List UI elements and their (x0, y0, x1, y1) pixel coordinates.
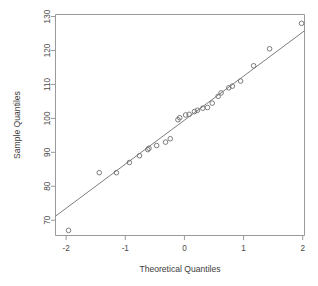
qq-line (56, 31, 305, 216)
qq-data-point (163, 140, 168, 145)
qq-data-point (251, 63, 256, 68)
x-tick-label: 0 (182, 244, 187, 253)
y-tick-label: 90 (43, 147, 52, 157)
y-tick-label: 120 (43, 43, 52, 57)
y-axis-ticks: 708090100110120130 (43, 9, 56, 225)
y-tick-label: 80 (43, 181, 52, 191)
y-axis-title: Sample Quantiles (12, 91, 22, 159)
x-axis-ticks: -2-1012 (63, 236, 306, 253)
y-tick-label: 130 (43, 9, 52, 23)
qq-data-point (210, 101, 215, 106)
y-tick-label: 110 (43, 77, 52, 90)
qq-data-point (66, 228, 71, 233)
qq-data-point (97, 170, 102, 175)
x-axis-title: Theoretical Quantiles (139, 264, 220, 274)
x-tick-label: -2 (63, 244, 71, 253)
y-tick-label: 70 (43, 215, 52, 225)
qq-data-point (168, 136, 173, 141)
y-tick-label: 100 (43, 111, 52, 125)
x-tick-label: 1 (241, 244, 246, 253)
qq-data-point (238, 79, 243, 84)
qq-data-point (205, 105, 210, 110)
qq-reference-line (56, 31, 305, 216)
qq-plot-figure: -2-1012 708090100110120130 Theoretical Q… (0, 0, 318, 286)
qq-data-point (267, 46, 272, 51)
qq-data-points (66, 21, 304, 233)
qq-data-point (154, 143, 159, 148)
qq-data-point (299, 21, 304, 26)
qq-plot-canvas: -2-1012 708090100110120130 Theoretical Q… (0, 0, 318, 286)
x-tick-label: -1 (122, 244, 130, 253)
x-tick-label: 2 (300, 244, 305, 253)
